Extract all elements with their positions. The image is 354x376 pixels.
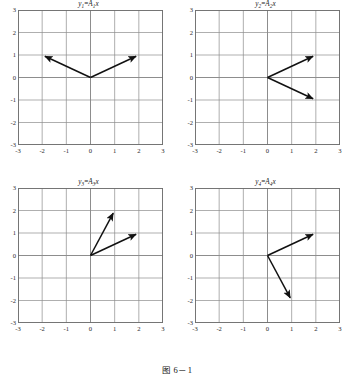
panel-4-ytick: 0: [181, 252, 193, 259]
panel-4-ytick: -3: [181, 319, 193, 326]
chart-panel-4: y4=A4x -3-2-101233210-1-2-3: [177, 178, 354, 356]
panel-1-ytick: -3: [4, 141, 16, 148]
panel-2-vector-b: [268, 78, 314, 99]
panel-1-xtick: 0: [85, 147, 97, 154]
panel-3-ytick: -2: [4, 297, 16, 304]
panel-4-xtick: 1: [286, 325, 298, 332]
panel-1-ytick: 3: [4, 6, 16, 13]
panel-1-vector-a: [45, 56, 91, 77]
panel-3-xtick: 2: [133, 325, 145, 332]
panel-1-plot-area: [18, 10, 163, 145]
panel-3-xtick: 0: [85, 325, 97, 332]
panel-2-title-var: x: [273, 0, 276, 8]
panel-3-xtick: 1: [109, 325, 121, 332]
panel-4-xtick: -2: [213, 325, 225, 332]
panel-4-ytick: -1: [181, 274, 193, 281]
panel-3-vector-a: [91, 213, 114, 255]
panel-4-vector-a: [268, 234, 314, 255]
panel-2-xtick: -2: [213, 147, 225, 154]
panel-3-ytick: 0: [4, 252, 16, 259]
panel-3-title-var: x: [96, 178, 99, 186]
panel-3-xtick: -1: [60, 325, 72, 332]
panel-4-svg: [195, 188, 340, 323]
panel-4-xtick: 0: [262, 325, 274, 332]
panel-2-ytick: 1: [181, 51, 193, 58]
panel-2-xtick: -1: [237, 147, 249, 154]
panel-1-ytick: -2: [4, 119, 16, 126]
panel-3-svg: [18, 188, 163, 323]
panel-1-xtick: 2: [133, 147, 145, 154]
panel-2-xtick: 1: [286, 147, 298, 154]
panel-2-xtick: 3: [334, 147, 346, 154]
chart-panel-2: y2=A2x -3-2-101233210-1-2-3: [177, 0, 354, 178]
panel-3-ytick: 3: [4, 184, 16, 191]
panel-4-ytick: -2: [181, 297, 193, 304]
panel-1-ytick: 0: [4, 74, 16, 81]
panel-4-plot-area: [195, 188, 340, 323]
panel-1-svg: [18, 10, 163, 145]
panel-4-ytick: 3: [181, 184, 193, 191]
panel-2-ytick: 0: [181, 74, 193, 81]
panel-1-xtick: -2: [36, 147, 48, 154]
panel-1-title-var: x: [96, 0, 99, 8]
panel-3-vector-b: [91, 234, 137, 255]
panel-2-vector-a: [268, 56, 314, 77]
figure-caption: 图 6－1: [0, 363, 354, 375]
panel-4-ytick: 2: [181, 207, 193, 214]
panel-3-ytick: -1: [4, 274, 16, 281]
panel-4-xtick: 3: [334, 325, 346, 332]
panel-3-ytick: -3: [4, 319, 16, 326]
panel-3-plot-area: [18, 188, 163, 323]
panel-2-ytick: -2: [181, 119, 193, 126]
panel-2-plot-area: [195, 10, 340, 145]
panel-4-xtick: -1: [237, 325, 249, 332]
panel-1-xtick: 1: [109, 147, 121, 154]
panel-4-ytick: 1: [181, 229, 193, 236]
panel-2-ytick: -1: [181, 96, 193, 103]
panel-3-xtick: -2: [36, 325, 48, 332]
panel-2-xtick: 0: [262, 147, 274, 154]
panel-3-ytick: 2: [4, 207, 16, 214]
figure-panel-grid: y1=A1x -3-2-101233210-1-2-3 y2=A2x -3-2-…: [0, 0, 354, 356]
chart-panel-1: y1=A1x -3-2-101233210-1-2-3: [0, 0, 177, 178]
panel-1-xtick: 3: [157, 147, 169, 154]
panel-2-ytick: -3: [181, 141, 193, 148]
panel-2-svg: [195, 10, 340, 145]
panel-1-ytick: 2: [4, 29, 16, 36]
panel-1-ytick: -1: [4, 96, 16, 103]
panel-1-xtick: -1: [60, 147, 72, 154]
chart-panel-3: y3=A3x -3-2-101233210-1-2-3: [0, 178, 177, 356]
panel-2-ytick: 3: [181, 6, 193, 13]
panel-2-xtick: 2: [310, 147, 322, 154]
panel-3-xtick: 3: [157, 325, 169, 332]
panel-4-xtick: 2: [310, 325, 322, 332]
panel-4-vector-b: [268, 256, 291, 298]
panel-3-ytick: 1: [4, 229, 16, 236]
panel-4-title-var: x: [273, 178, 276, 186]
panel-1-vector-b: [91, 56, 137, 77]
panel-2-ytick: 2: [181, 29, 193, 36]
panel-1-ytick: 1: [4, 51, 16, 58]
